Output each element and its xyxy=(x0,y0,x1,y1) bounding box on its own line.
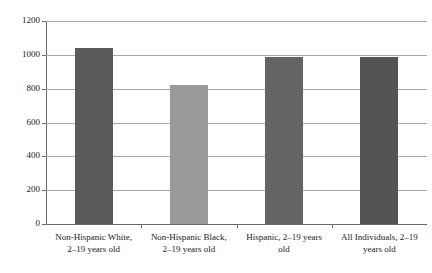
y-axis-tick-mark xyxy=(42,190,46,191)
bar-chart: 020040060080010001200 Non-Hispanic White… xyxy=(0,0,432,273)
x-axis-category-label: Non-Hispanic White,2–19 years old xyxy=(46,231,141,271)
bar xyxy=(170,85,208,224)
category-label-line: 2–19 years old xyxy=(48,243,139,255)
y-axis-tick-mark xyxy=(42,55,46,56)
category-label-line: 2–19 years old xyxy=(143,243,234,255)
category-label-line: Non-Hispanic White, xyxy=(48,231,139,243)
category-label-line: old xyxy=(239,243,330,255)
bar-series xyxy=(46,21,427,224)
y-axis-tick-mark xyxy=(42,21,46,22)
y-axis-tick-mark xyxy=(42,89,46,90)
y-axis-tick-label: 600 xyxy=(4,118,40,127)
bar xyxy=(75,48,113,224)
category-label-line: All Individuals, 2–19 xyxy=(334,231,425,243)
y-axis-tick-label: 0 xyxy=(4,219,40,228)
y-axis-tick-label: 200 xyxy=(4,185,40,194)
x-axis-category-label: Non-Hispanic Black,2–19 years old xyxy=(141,231,236,271)
x-axis-category-label: Hispanic, 2–19 yearsold xyxy=(237,231,332,271)
y-axis-tick-mark xyxy=(42,156,46,157)
bar xyxy=(265,57,303,224)
y-axis-labels: 020040060080010001200 xyxy=(0,0,40,273)
y-axis-tick-label: 1200 xyxy=(4,16,40,25)
category-label-line: Hispanic, 2–19 years xyxy=(239,231,330,243)
y-axis-tick-mark xyxy=(42,123,46,124)
x-axis-category-label: All Individuals, 2–19years old xyxy=(332,231,427,271)
x-axis-tick-mark xyxy=(237,224,238,228)
category-label-line: Non-Hispanic Black, xyxy=(143,231,234,243)
x-axis-tick-mark xyxy=(141,224,142,228)
x-axis-tick-mark xyxy=(332,224,333,228)
category-label-line: years old xyxy=(334,243,425,255)
y-axis-tick-label: 400 xyxy=(4,151,40,160)
bar xyxy=(360,57,398,224)
y-axis-tick-mark xyxy=(42,224,46,225)
x-axis-category-labels: Non-Hispanic White,2–19 years oldNon-His… xyxy=(46,231,427,271)
y-axis-tick-label: 800 xyxy=(4,84,40,93)
y-axis-tick-label: 1000 xyxy=(4,50,40,59)
